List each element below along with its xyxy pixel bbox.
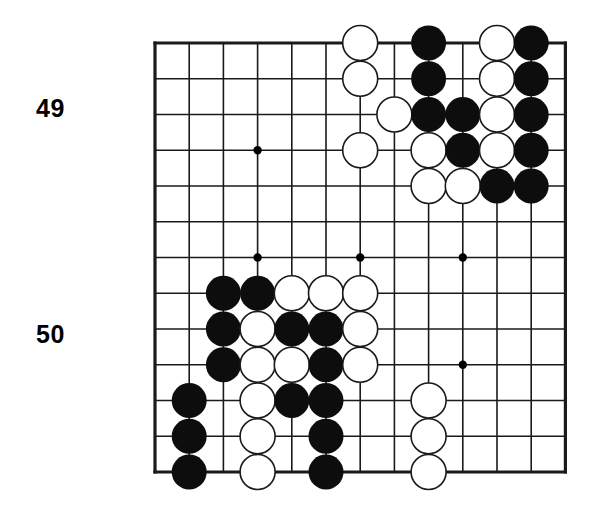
star-point [253, 253, 261, 261]
white-stone[interactable] [480, 133, 515, 168]
black-stone[interactable] [206, 276, 241, 311]
white-stone[interactable] [480, 61, 515, 96]
white-stone[interactable] [240, 347, 275, 382]
black-stone[interactable] [172, 455, 207, 490]
white-stone[interactable] [343, 133, 378, 168]
white-stone[interactable] [240, 383, 275, 418]
black-stone[interactable] [309, 347, 344, 382]
star-point [459, 253, 467, 261]
star-point [459, 361, 467, 369]
black-stone[interactable] [309, 419, 344, 454]
black-stone[interactable] [480, 169, 515, 204]
white-stone[interactable] [411, 383, 446, 418]
black-stone[interactable] [411, 61, 446, 96]
black-stone[interactable] [514, 169, 549, 204]
black-stone[interactable] [514, 26, 549, 61]
white-stone[interactable] [343, 61, 378, 96]
black-stone[interactable] [240, 276, 275, 311]
black-stone[interactable] [411, 26, 446, 61]
black-stone[interactable] [309, 312, 344, 347]
black-stone[interactable] [411, 97, 446, 132]
white-stone[interactable] [274, 276, 309, 311]
go-board-canvas[interactable] [0, 0, 600, 515]
diagram-page: 49 50 [0, 0, 600, 515]
white-stone[interactable] [274, 347, 309, 382]
star-point [356, 253, 364, 261]
white-stone[interactable] [411, 133, 446, 168]
black-stone[interactable] [514, 97, 549, 132]
black-stone[interactable] [445, 133, 480, 168]
black-stone[interactable] [172, 419, 207, 454]
white-stone[interactable] [240, 312, 275, 347]
white-stone[interactable] [343, 347, 378, 382]
star-point [253, 146, 261, 154]
white-stone[interactable] [480, 26, 515, 61]
white-stone[interactable] [309, 276, 344, 311]
white-stone[interactable] [377, 97, 412, 132]
white-stone[interactable] [240, 455, 275, 490]
go-board[interactable] [0, 0, 600, 515]
black-stone[interactable] [309, 455, 344, 490]
black-stone[interactable] [514, 133, 549, 168]
black-stone[interactable] [206, 347, 241, 382]
black-stone[interactable] [172, 383, 207, 418]
white-stone[interactable] [240, 419, 275, 454]
black-stone[interactable] [514, 61, 549, 96]
white-stone[interactable] [411, 419, 446, 454]
black-stone[interactable] [445, 97, 480, 132]
black-stone[interactable] [274, 383, 309, 418]
white-stone[interactable] [343, 26, 378, 61]
white-stone[interactable] [445, 169, 480, 204]
white-stone[interactable] [343, 312, 378, 347]
white-stone[interactable] [343, 276, 378, 311]
black-stone[interactable] [206, 312, 241, 347]
black-stone[interactable] [309, 383, 344, 418]
white-stone[interactable] [480, 97, 515, 132]
white-stone[interactable] [411, 169, 446, 204]
white-stone[interactable] [411, 455, 446, 490]
black-stone[interactable] [274, 312, 309, 347]
